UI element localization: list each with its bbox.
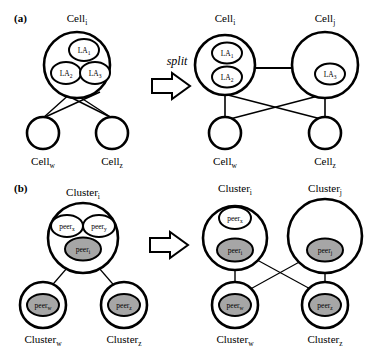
split-arrow-label: split bbox=[167, 54, 188, 68]
cell-z-label-after: Cellz bbox=[314, 155, 336, 170]
cell-i-label: Celli bbox=[67, 12, 87, 27]
split-arrow-b bbox=[150, 232, 188, 258]
cell-w-label-after: Cellw bbox=[213, 155, 237, 170]
cell-z-label: Cellz bbox=[101, 155, 123, 170]
panel-b-after: Clusteri peerx peeri Clusterj peerj peer… bbox=[203, 182, 362, 348]
cell-w-label: Cellw bbox=[31, 155, 55, 170]
panel-a-after: Celli LA1 LA2 Cellj LA3 Cellw Cellz bbox=[195, 12, 358, 170]
figure-canvas: (a) Celli LA1 LA2 LA3 Cellw Cellz bbox=[0, 0, 371, 355]
split-arrow-a: split bbox=[152, 54, 190, 99]
peer-i-label-after: peeri bbox=[228, 246, 243, 256]
cell-w-circle-after bbox=[209, 117, 241, 149]
panel-a-before: Celli LA1 LA2 LA3 Cellw Cellz bbox=[27, 12, 128, 170]
peer-j-label: peerj bbox=[318, 246, 333, 256]
cluster-w-label-after: Clusterw bbox=[216, 333, 254, 348]
figure-root: (a) Celli LA1 LA2 LA3 Cellw Cellz bbox=[0, 0, 371, 355]
peer-i-label: peeri bbox=[76, 245, 91, 255]
panel-a-tag: (a) bbox=[14, 12, 27, 25]
cluster-j-label: Clusterj bbox=[308, 182, 342, 197]
cell-z-circle bbox=[96, 117, 128, 149]
cell-z-circle-after bbox=[309, 117, 341, 149]
cluster-w-label: Clusterw bbox=[24, 333, 62, 348]
panel-b: (b) Clusteri peerx peery peeri peerw Clu… bbox=[14, 182, 362, 348]
cluster-i-label: Clusteri bbox=[66, 186, 100, 201]
cluster-z-label-after: Clusterz bbox=[307, 333, 343, 348]
cell-i-label-after: Celli bbox=[215, 12, 235, 27]
cell-j-label: Cellj bbox=[315, 12, 335, 27]
cell-w-circle bbox=[27, 117, 59, 149]
cluster-i-label-after: Clusteri bbox=[218, 182, 252, 197]
panel-b-tag: (b) bbox=[14, 182, 28, 195]
cluster-z-label: Clusterz bbox=[106, 333, 142, 348]
panel-a: (a) Celli LA1 LA2 LA3 Cellw Cellz bbox=[14, 12, 358, 170]
panel-b-before: Clusteri peerx peery peeri peerw Cluster… bbox=[20, 186, 147, 348]
split-arrow-icon bbox=[152, 73, 190, 99]
split-arrow-icon-b bbox=[150, 232, 188, 258]
